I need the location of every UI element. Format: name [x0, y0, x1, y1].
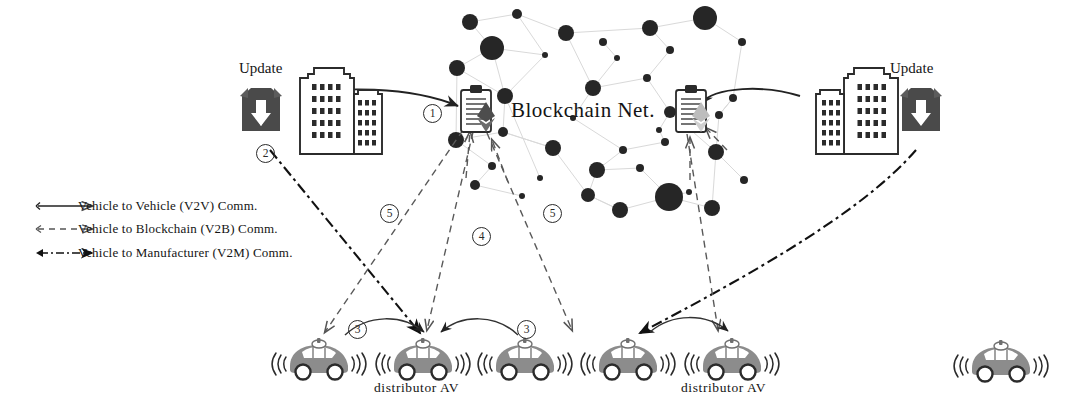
legend-label-v2v: Vehicle to Vehicle (V2V) Comm. — [78, 199, 257, 212]
autonomous-vehicle-icon — [478, 338, 572, 380]
legend-label-v2b: Vehicle to Blockchain (V2B) Comm. — [78, 222, 278, 235]
marker-3-right: 3 — [517, 320, 536, 339]
autonomous-vehicle-icon — [685, 338, 779, 380]
marker-3-left: 3 — [348, 320, 367, 339]
update-label-left: Update — [239, 61, 282, 76]
distributor-av-label-left: distributor AV — [374, 381, 459, 395]
building-icon-right — [816, 68, 898, 154]
marker-5-right: 5 — [543, 204, 562, 223]
blockchain-net-title: Blockchain Net. — [511, 100, 655, 121]
update-label-right: Update — [890, 61, 933, 76]
legend-label-v2m: Vehicle to Manufacturer (V2M) Comm. — [78, 246, 293, 259]
update-icon-right — [900, 88, 942, 131]
autonomous-vehicle-icon — [954, 340, 1048, 382]
marker-1: 1 — [423, 104, 442, 123]
smart-contract-clipboard-right — [676, 85, 710, 132]
marker-2: 2 — [256, 144, 275, 163]
autonomous-vehicles — [272, 338, 1048, 382]
smart-contract-clipboard-left — [461, 85, 495, 132]
update-icon-left — [240, 88, 282, 131]
building-icon-left — [300, 68, 382, 154]
autonomous-vehicle-icon — [272, 338, 366, 380]
marker-4: 4 — [472, 227, 491, 246]
marker-5-left: 5 — [380, 204, 399, 223]
distributor-av-label-right: distributor AV — [681, 381, 766, 395]
diagram-canvas: Update Update Blockchain Net. distributo… — [0, 0, 1072, 400]
autonomous-vehicle-icon — [581, 338, 675, 380]
autonomous-vehicle-icon — [376, 338, 470, 380]
